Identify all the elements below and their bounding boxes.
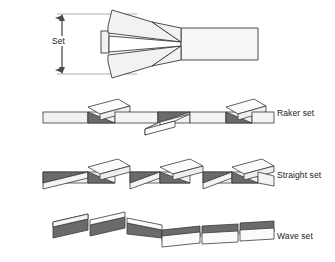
straight-set-label: Straight set xyxy=(277,170,321,180)
wave-set-label: Wave set xyxy=(277,231,313,241)
raker-set-row xyxy=(43,99,274,135)
set-dimension-label: Set xyxy=(50,36,67,46)
straight-set-row xyxy=(43,159,274,189)
wave-set-row xyxy=(53,212,274,247)
raker-set-label: Raker set xyxy=(277,108,314,118)
tooth-detail-view xyxy=(101,10,258,78)
figure-canvas: Set Raker set Straight set Wave set xyxy=(0,0,335,262)
